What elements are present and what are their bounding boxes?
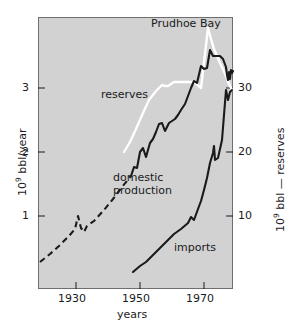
chart-svg-overlay [0,0,291,326]
left-tick-3: 3 [22,81,29,94]
annotation-domestic-production-line1: domestic [113,172,163,184]
left-axis-title: 109 bbl/year [14,128,29,196]
annotation-reserves: reserves [101,89,148,101]
left-axis-title-rest: bbl/year [16,128,29,177]
annotation-imports: imports [174,242,216,254]
x-tick-1930: 1930 [58,292,86,305]
annotation-prudhoe-bay: Prudhoe Bay [151,18,221,30]
left-axis-title-base: 10 [16,182,29,196]
right-tick-20: 20 [238,145,252,158]
annotation-domestic-production-line2: production [113,185,172,197]
left-tick-1: 1 [22,209,29,222]
right-axis-title-rest: bbl — reserves [274,128,287,214]
left-axis-ticks [38,88,45,216]
right-axis-title: 109 bbl — reserves [272,128,287,232]
right-axis-title-exponent: 9 [272,213,281,218]
x-axis-title: years [117,308,147,321]
left-axis-title-exponent: 9 [14,177,23,182]
right-axis-ticks [226,88,233,216]
right-tick-30: 30 [238,81,252,94]
x-tick-1950: 1950 [122,292,150,305]
x-tick-1970: 1970 [186,292,214,305]
bottom-axis-ticks [76,282,204,289]
oil-production-chart: 3 2 1 30 20 10 1930 1950 1970 109 bbl/ye… [0,0,291,326]
right-tick-10: 10 [238,209,252,222]
right-axis-title-base: 10 [274,218,287,232]
